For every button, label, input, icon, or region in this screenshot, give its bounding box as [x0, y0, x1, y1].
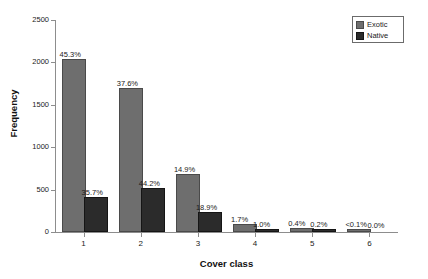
bar-native-class-1 — [84, 197, 108, 232]
x-tick-label: 5 — [302, 240, 322, 248]
x-tick — [84, 233, 85, 237]
chart-legend: Exotic Native — [352, 16, 404, 43]
x-tick-label: 6 — [359, 240, 379, 248]
bar-exotic-class-1 — [62, 59, 86, 232]
bar-value-label: 1.7% — [231, 216, 248, 224]
x-tick-label: 1 — [74, 240, 94, 248]
bar-value-label: 44.2% — [139, 180, 160, 188]
bar-value-label: 0.4% — [288, 220, 305, 228]
bar-value-label: 14.9% — [174, 166, 195, 174]
bar-exotic-class-2 — [119, 88, 143, 232]
bar-value-label: 37.6% — [117, 80, 138, 88]
y-tick — [51, 232, 55, 233]
x-tick — [255, 233, 256, 237]
bar-native-class-3 — [198, 212, 222, 232]
legend-swatch-native — [356, 32, 364, 40]
legend-label-exotic: Exotic — [367, 21, 387, 29]
x-tick — [369, 233, 370, 237]
bar-chart: Frequency Cover class 050010001500200025… — [0, 0, 428, 279]
x-tick-label: 4 — [245, 240, 265, 248]
bar-value-label: <0.1% — [345, 221, 366, 229]
x-tick — [198, 233, 199, 237]
bar-exotic-class-5 — [290, 228, 314, 232]
x-tick-label: 3 — [188, 240, 208, 248]
x-tick — [312, 233, 313, 237]
legend-item-exotic: Exotic — [356, 19, 403, 30]
bar-native-class-4 — [255, 229, 279, 232]
x-tick — [141, 233, 142, 237]
bar-value-label: 1.0% — [253, 221, 270, 229]
bar-native-class-2 — [141, 188, 165, 232]
bar-value-label: 45.3% — [60, 51, 81, 59]
x-tick-label: 2 — [131, 240, 151, 248]
x-axis-line — [55, 232, 398, 233]
bar-native-class-5 — [312, 229, 336, 232]
legend-label-native: Native — [367, 32, 388, 40]
legend-item-native: Native — [356, 30, 403, 41]
legend-swatch-exotic — [356, 21, 364, 29]
x-axis-title: Cover class — [55, 258, 398, 269]
bar-value-label: 18.9% — [196, 204, 217, 212]
bar-value-label: 35.7% — [82, 189, 103, 197]
bar-value-label: 0.2% — [310, 221, 327, 229]
bar-value-label: 0.0% — [367, 222, 384, 230]
